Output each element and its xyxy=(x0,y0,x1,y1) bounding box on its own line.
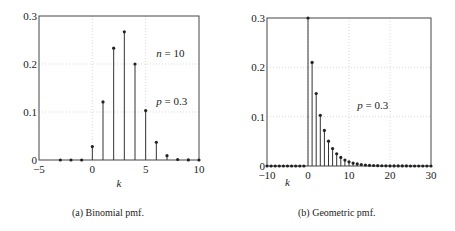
stem-marker xyxy=(91,145,94,148)
stem-marker xyxy=(413,164,416,167)
binomial-pmf-chart: −5051000.10.20.3kn = 10p = 0.3 xyxy=(23,10,205,189)
stem-marker xyxy=(133,62,136,65)
stem-marker xyxy=(176,158,179,161)
stem-marker xyxy=(335,152,338,155)
stem-marker xyxy=(331,147,334,150)
stem-marker xyxy=(187,158,190,161)
stem-marker xyxy=(376,164,379,167)
stem-marker xyxy=(319,114,322,117)
stem-marker xyxy=(360,163,363,166)
annotation: n = 10 xyxy=(156,47,185,59)
stem-marker xyxy=(405,164,408,167)
x-tick-label: 5 xyxy=(143,163,149,175)
stem-marker xyxy=(339,156,342,159)
y-tick-label: 0.2 xyxy=(23,58,37,70)
stem-marker xyxy=(306,16,309,19)
stem-marker xyxy=(286,164,289,167)
annotation: p = 0.3 xyxy=(155,95,187,107)
stem-marker xyxy=(155,141,158,144)
stem-marker xyxy=(409,164,412,167)
axes-frame xyxy=(267,18,431,166)
stem-marker xyxy=(294,164,297,167)
stem-marker xyxy=(380,164,383,167)
stem-marker xyxy=(265,164,268,167)
y-tick-label: 0 xyxy=(32,154,38,166)
stem-marker xyxy=(298,164,301,167)
x-axis-label: k xyxy=(285,176,291,188)
x-axis-label: k xyxy=(117,177,123,189)
stem-marker xyxy=(290,164,293,167)
stem-marker xyxy=(123,30,126,33)
stem-marker xyxy=(352,161,355,164)
annotation: p = 0.3 xyxy=(356,99,388,111)
x-tick-label: 30 xyxy=(426,169,438,181)
x-tick-label: 0 xyxy=(305,169,311,181)
stem-marker xyxy=(59,158,62,161)
x-tick-label: 20 xyxy=(385,169,397,181)
stem-marker xyxy=(327,140,330,143)
y-tick-label: 0.3 xyxy=(23,10,37,22)
stem-marker xyxy=(197,158,200,161)
stem-marker xyxy=(144,109,147,112)
stem-marker xyxy=(101,100,104,103)
y-tick-label: 0.2 xyxy=(251,61,265,73)
stem-marker xyxy=(315,92,318,95)
stem-marker xyxy=(165,154,168,157)
x-tick-label: 10 xyxy=(194,163,206,175)
stem-marker xyxy=(425,164,428,167)
axes-frame xyxy=(39,16,199,160)
y-tick-label: 0.3 xyxy=(251,12,265,24)
stem-marker xyxy=(282,164,285,167)
stem-marker xyxy=(372,164,375,167)
stem-marker xyxy=(112,47,115,50)
stem-marker xyxy=(388,164,391,167)
stem-marker xyxy=(401,164,404,167)
geometric-pmf-chart: −10010203000.10.20.3kp = 0.3 xyxy=(251,12,437,188)
y-tick-label: 0.1 xyxy=(23,106,37,118)
stem-marker xyxy=(417,164,420,167)
x-tick-label: 10 xyxy=(344,169,356,181)
stem-marker xyxy=(397,164,400,167)
stem-marker xyxy=(311,61,314,64)
stem-marker xyxy=(356,162,359,165)
stem-marker xyxy=(364,163,367,166)
stem-marker xyxy=(323,129,326,132)
stem-marker xyxy=(393,164,396,167)
stem-marker xyxy=(274,164,277,167)
stem-marker xyxy=(343,158,346,161)
stem-marker xyxy=(278,164,281,167)
caption-binomial: (a) Binomial pmf. xyxy=(72,207,144,218)
stem-marker xyxy=(421,164,424,167)
stem-marker xyxy=(347,160,350,163)
stem-marker xyxy=(368,164,371,167)
pmf-figure: −5051000.10.20.3kn = 10p = 0.3 −10010203… xyxy=(0,0,455,231)
stem-marker xyxy=(302,164,305,167)
stem-marker xyxy=(69,158,72,161)
stem-marker xyxy=(384,164,387,167)
stem-marker xyxy=(429,164,432,167)
y-tick-label: 0 xyxy=(260,160,266,172)
stem-marker xyxy=(80,158,83,161)
y-tick-label: 0.1 xyxy=(251,111,265,123)
caption-geometric: (b) Geometric pmf. xyxy=(298,207,375,218)
stem-marker xyxy=(270,164,273,167)
x-tick-label: 0 xyxy=(90,163,96,175)
